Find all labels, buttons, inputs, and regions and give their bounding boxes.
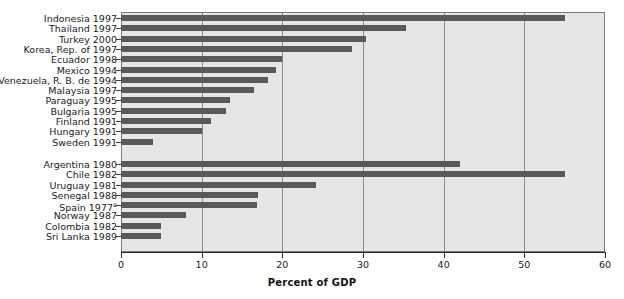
gridline-50 [524,13,525,251]
x-tick-label: 20 [276,259,288,270]
category-tick [116,174,121,175]
bar [121,97,230,103]
x-tick-30 [363,253,364,258]
category-tick [116,90,121,91]
category-tick [116,142,121,143]
bar [121,15,565,21]
x-tick-50 [524,253,525,258]
bar [121,108,226,114]
gridline-30 [363,13,364,251]
bar [121,56,282,62]
bar [121,212,186,218]
category-label: Sweden 1991 [52,137,117,148]
x-tick-label: 10 [196,259,208,270]
x-tick-label: 40 [438,259,450,270]
x-tick-0 [121,253,122,258]
bar-chart-figure: Indonesia 1997Thailand 1997Turkey 2000Ko… [0,0,624,299]
category-tick [116,18,121,19]
category-tick [116,226,121,227]
bar [121,118,211,124]
bar [121,161,460,167]
x-tick-label: 50 [518,259,530,270]
category-tick [116,111,121,112]
category-tick [116,185,121,186]
category-tick [116,215,121,216]
category-tick [116,49,121,50]
bar [121,67,276,73]
bar [121,192,258,198]
category-tick [116,164,121,165]
x-tick-label: 60 [599,259,611,270]
bar [121,25,406,31]
gridline-40 [444,13,445,251]
category-tick [116,131,121,132]
category-tick [116,205,121,206]
x-tick-label: 0 [118,259,124,270]
bar [121,171,565,177]
x-tick-label: 30 [357,259,369,270]
bar [121,36,366,42]
category-label: Sri Lanka 1989 [46,231,117,242]
category-tick [116,236,121,237]
category-tick [116,100,121,101]
bar [121,46,352,52]
category-axis-labels: Indonesia 1997Thailand 1997Turkey 2000Ko… [0,12,117,252]
x-tick-20 [282,253,283,258]
category-tick [116,28,121,29]
bar [121,202,257,208]
x-tick-40 [444,253,445,258]
category-tick [116,59,121,60]
category-tick [116,195,121,196]
bar [121,128,202,134]
bar [121,77,268,83]
bar [121,223,161,229]
bar [121,139,153,145]
category-tick [116,39,121,40]
x-tick-60 [605,253,606,258]
x-tick-10 [202,253,203,258]
category-tick [116,80,121,81]
bar [121,182,316,188]
bar [121,233,161,239]
category-tick [116,70,121,71]
x-axis-title: Percent of GDP [0,277,624,288]
bar [121,87,254,93]
category-tick [116,121,121,122]
